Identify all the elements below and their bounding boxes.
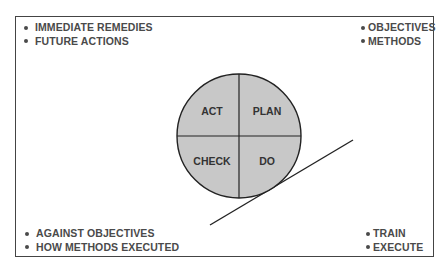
quadrant-act: ACT	[201, 105, 223, 117]
pdca-wheel: ACT PLAN CHECK DO	[0, 0, 448, 271]
quadrant-plan: PLAN	[253, 105, 282, 117]
quadrant-do: DO	[259, 155, 275, 167]
quadrant-check: CHECK	[193, 155, 231, 167]
